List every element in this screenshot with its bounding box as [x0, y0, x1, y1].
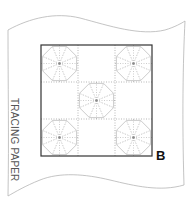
motif-center	[58, 136, 60, 138]
motif-center	[95, 99, 97, 101]
tracing-paper-label: TRACING PAPER	[9, 98, 20, 182]
motif-center	[132, 136, 134, 138]
figure-letter-label: B	[156, 148, 165, 163]
tracing-paper-diagram: TRACING PAPER B	[0, 0, 190, 205]
motif-center	[132, 62, 134, 64]
motif-center	[58, 62, 60, 64]
tracing-paper-svg	[0, 0, 190, 205]
